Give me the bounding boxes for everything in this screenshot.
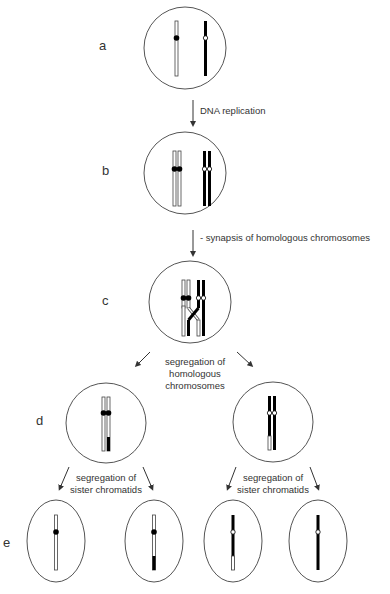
stage-label-a: a (99, 38, 106, 53)
stage-label-b: b (102, 163, 109, 178)
cell-d-left (66, 383, 146, 463)
cell-b (144, 132, 226, 214)
annotation-segregation-homologous: segregation of homologous chromosomes (150, 356, 240, 392)
cell-e-2 (125, 500, 183, 582)
annotation-segregation-sister-left: segregation of sister chromatids (61, 472, 151, 496)
cell-d-right (233, 382, 313, 462)
cell-e-1 (27, 500, 85, 582)
seg-homologous-line2: homologous (150, 368, 240, 380)
annotation-dna-replication: DNA replication (200, 105, 265, 117)
cell-c (149, 261, 231, 343)
seg-homologous-line3: chromosomes (150, 380, 240, 392)
seg-sister-right-line1: segregation of (228, 472, 318, 484)
cell-e-4 (289, 500, 347, 582)
cell-a (144, 7, 226, 89)
annotation-segregation-sister-right: segregation of sister chromatids (228, 472, 318, 496)
meiosis-diagram (0, 0, 390, 594)
seg-homologous-line1: segregation of (150, 356, 240, 368)
annotation-synapsis: - synapsis of homologous chromosomes (200, 232, 370, 244)
stage-label-e: e (3, 535, 10, 550)
seg-sister-right-line2: sister chromatids (228, 484, 318, 496)
stage-label-d: d (36, 413, 43, 428)
seg-sister-left-line2: sister chromatids (61, 484, 151, 496)
cell-e-3 (204, 500, 262, 582)
seg-sister-left-line1: segregation of (61, 472, 151, 484)
stage-label-c: c (102, 293, 109, 308)
arrow-homologous-left (137, 352, 150, 365)
